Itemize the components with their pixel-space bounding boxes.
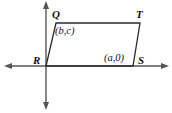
vertex-label-s: S [138,55,144,66]
x-axis-arrow-left [4,63,12,69]
coordinate-label-s: (a,0) [104,53,124,64]
geometry-figure: Q T R S (b,c) (a,0) [0,0,172,113]
x-axis-arrow-right [161,63,169,69]
coordinate-label-q: (b,c) [55,26,75,37]
vertex-label-r: R [33,55,40,66]
y-axis-arrow-down [43,102,49,110]
y-axis-arrow-up [43,1,49,9]
vertex-label-q: Q [52,9,60,20]
vertex-label-t: T [136,9,143,20]
axes-group [4,1,169,110]
figure-canvas [0,0,172,113]
